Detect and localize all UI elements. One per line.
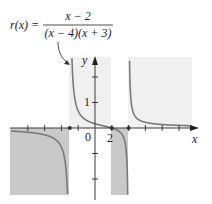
region-negative-left	[10, 128, 69, 195]
x-axis-point	[127, 126, 131, 130]
formula-denominator: (x − 4)(x + 3)	[45, 26, 112, 40]
x-axis-point	[68, 126, 72, 130]
region-positive-middle	[69, 57, 111, 128]
region-negative-middle	[111, 128, 128, 195]
rational-function-graph: x y 0 2 1 r(x) = x − 2 (x − 4)(x + 3)	[0, 0, 212, 204]
x-tick-label-2: 2	[107, 131, 113, 145]
x-axis-point	[110, 126, 114, 130]
x-axis-label: x	[191, 132, 198, 146]
formula-lhs: r(x) =	[10, 18, 39, 32]
formula-numerator: x − 2	[64, 9, 90, 23]
y-axis-label: y	[81, 53, 88, 67]
origin-label: 0	[85, 130, 91, 144]
y-tick-label-1: 1	[84, 95, 90, 109]
annotation-arrow	[58, 42, 68, 63]
region-positive-right	[128, 57, 192, 128]
x-axis-arrow-icon	[190, 125, 199, 131]
